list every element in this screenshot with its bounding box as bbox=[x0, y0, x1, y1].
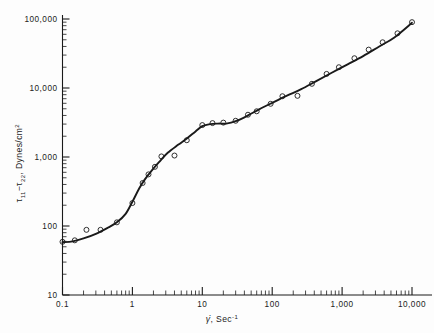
y-tick-label: 1,000 bbox=[35, 153, 58, 162]
x-tick-label: 10,000 bbox=[398, 300, 426, 309]
x-tick-label: 1 bbox=[130, 300, 135, 309]
axis-lines bbox=[63, 15, 433, 295]
data-point-marker bbox=[172, 153, 177, 158]
data-point-markers bbox=[60, 20, 415, 245]
y-axis-title: τ11−τ22, Dynes/cm2 bbox=[14, 124, 26, 203]
x-axis-ticks bbox=[63, 287, 413, 295]
x-axis-tick-labels: 0.11101001,00010,000 bbox=[56, 300, 426, 309]
x-tick-label: 10 bbox=[197, 300, 207, 309]
y-tick-label: 100 bbox=[42, 222, 57, 231]
x-tick-label: 0.1 bbox=[56, 300, 69, 309]
y-axis-title-text: τ11−τ22, Dynes/cm2 bbox=[14, 124, 26, 203]
fitted-curve bbox=[63, 23, 413, 242]
x-axis-title: γ̇, Sec-1 bbox=[206, 314, 239, 324]
x-axis-title-text: γ̇, Sec-1 bbox=[206, 314, 239, 324]
y-tick-label: 10 bbox=[47, 291, 57, 300]
log-log-scatter-plot: 101001,00010,000100,000 0.11101001,00010… bbox=[0, 0, 434, 333]
figure-container: 101001,00010,000100,000 0.11101001,00010… bbox=[0, 0, 434, 333]
data-point-marker bbox=[366, 47, 371, 52]
y-tick-label: 100,000 bbox=[24, 15, 57, 24]
y-axis-ticks bbox=[63, 19, 70, 295]
y-axis-tick-labels: 101001,00010,000100,000 bbox=[24, 15, 57, 300]
x-tick-label: 1,000 bbox=[331, 300, 354, 309]
y-tick-label: 10,000 bbox=[29, 84, 57, 93]
data-point-marker bbox=[84, 227, 89, 232]
data-point-marker bbox=[295, 93, 300, 98]
fitted-curve-path bbox=[63, 23, 413, 242]
x-tick-label: 100 bbox=[265, 300, 280, 309]
